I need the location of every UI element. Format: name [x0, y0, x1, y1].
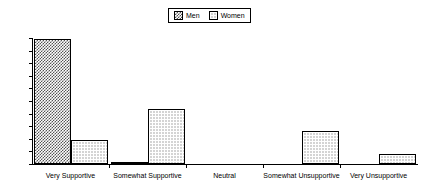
x-axis-tick-mark	[340, 164, 341, 168]
x-axis-category-label: Somewhat Unsupportive	[263, 172, 339, 180]
x-axis-line	[32, 164, 418, 165]
y-axis-tick-mark	[29, 63, 32, 64]
y-axis-tick-mark	[29, 101, 32, 102]
men-pattern-swatch-icon	[174, 11, 183, 20]
legend-entry-men: Men	[174, 11, 200, 20]
women-pattern-swatch-icon	[209, 11, 218, 20]
bar-women-somewhat-supportive	[148, 109, 185, 164]
legend-entry-women: Women	[209, 11, 245, 20]
legend-label-men: Men	[186, 12, 200, 19]
x-axis-tick-mark	[263, 164, 264, 168]
y-axis-tick-mark	[29, 164, 32, 165]
bar-men-very-supportive	[34, 39, 71, 164]
bar-women-very-supportive	[71, 140, 108, 164]
y-axis-tick-mark	[29, 51, 32, 52]
y-axis-tick-mark	[29, 114, 32, 115]
bar-chart: Men Women 0102030405060708090100 Very Su…	[0, 0, 425, 192]
y-axis-tick-mark	[29, 139, 32, 140]
legend-label-women: Women	[221, 12, 245, 19]
y-axis-tick-mark	[29, 38, 32, 39]
x-axis-category-label: Very Unsupportive	[350, 172, 407, 180]
x-axis-category-label: Somewhat Supportive	[113, 172, 181, 180]
bar-men-somewhat-supportive	[111, 162, 148, 164]
x-axis-tick-mark	[186, 164, 187, 168]
y-axis-tick-mark	[29, 151, 32, 152]
y-axis-tick-mark	[29, 126, 32, 127]
y-axis-tick-mark	[29, 88, 32, 89]
plot-area	[32, 38, 417, 164]
x-axis-tick-mark	[109, 164, 110, 168]
chart-legend: Men Women	[168, 8, 251, 23]
x-axis-category-label: Neutral	[213, 172, 236, 180]
y-axis-tick-mark	[29, 76, 32, 77]
bar-women-somewhat-unsupportive	[302, 131, 339, 164]
bar-women-very-unsupportive	[379, 154, 416, 164]
x-axis-category-label: Very Supportive	[46, 172, 95, 180]
